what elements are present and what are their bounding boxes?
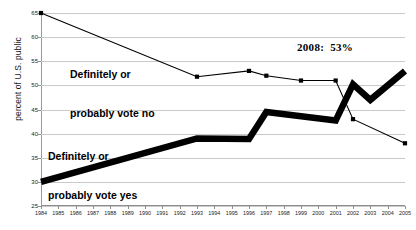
y-axis-tick-label: 40 bbox=[31, 131, 38, 137]
x-axis-tick-mark bbox=[162, 206, 163, 209]
vote-no-label-line2: probably vote no bbox=[70, 107, 155, 120]
x-axis-tick-label: 2003 bbox=[364, 210, 376, 216]
data-point-marker bbox=[195, 75, 199, 79]
data-point-marker bbox=[351, 117, 355, 121]
x-axis-tick-mark bbox=[197, 206, 198, 209]
x-axis-tick-mark bbox=[405, 206, 406, 209]
data-point-marker bbox=[247, 69, 251, 73]
x-axis-tick-label: 1992 bbox=[174, 210, 186, 216]
data-point-marker bbox=[39, 11, 43, 15]
y-axis-tick-label: 35 bbox=[31, 155, 38, 161]
vote-no-label-line1: Definitely or bbox=[70, 68, 155, 81]
y-axis-tick-label: 50 bbox=[31, 82, 38, 88]
x-axis-tick-mark bbox=[336, 206, 337, 209]
x-axis-tick-label: 2000 bbox=[312, 210, 324, 216]
x-axis-tick-mark bbox=[388, 206, 389, 209]
y-axis-tick-label: 65 bbox=[31, 10, 38, 16]
data-point-marker bbox=[264, 74, 268, 78]
x-axis-tick-mark bbox=[214, 206, 215, 209]
vote-yes-label-line2: probably vote yes bbox=[48, 189, 137, 202]
chart-container: percent of U.S. public 25303540455055606… bbox=[0, 0, 416, 230]
y-axis-tick-label: 25 bbox=[31, 203, 38, 209]
x-axis-tick-label: 2001 bbox=[330, 210, 342, 216]
x-axis-tick-mark bbox=[266, 206, 267, 209]
x-axis-tick-label: 1996 bbox=[243, 210, 255, 216]
vote-yes-label: Definitely or probably vote yes bbox=[48, 124, 137, 228]
data-point-marker bbox=[299, 78, 303, 82]
x-axis-tick-label: 2002 bbox=[347, 210, 359, 216]
x-axis-tick-label: 1995 bbox=[226, 210, 238, 216]
x-axis-tick-mark bbox=[180, 206, 181, 209]
x-axis-tick-mark bbox=[41, 206, 42, 209]
x-axis-tick-label: 1984 bbox=[35, 210, 47, 216]
y-axis-tick-label: 45 bbox=[31, 107, 38, 113]
x-axis-tick-label: 1994 bbox=[208, 210, 220, 216]
x-axis-tick-label: 2005 bbox=[399, 210, 411, 216]
data-point-marker bbox=[403, 141, 407, 145]
y-axis-title: percent of U.S. public bbox=[13, 9, 23, 149]
x-axis-tick-mark bbox=[370, 206, 371, 209]
x-axis-tick-label: 1991 bbox=[156, 210, 168, 216]
x-axis-tick-label: 1993 bbox=[191, 210, 203, 216]
x-axis-tick-mark bbox=[232, 206, 233, 209]
vote-yes-label-line1: Definitely or bbox=[48, 150, 137, 163]
x-axis-tick-mark bbox=[249, 206, 250, 209]
data-point-marker bbox=[334, 78, 338, 82]
y-axis-tick-label: 60 bbox=[31, 34, 38, 40]
x-axis-tick-label: 1999 bbox=[295, 210, 307, 216]
x-axis-tick-label: 2004 bbox=[382, 210, 394, 216]
x-axis-tick-mark bbox=[301, 206, 302, 209]
x-axis-tick-mark bbox=[318, 206, 319, 209]
x-axis-tick-mark bbox=[145, 206, 146, 209]
x-axis-tick-mark bbox=[353, 206, 354, 209]
x-axis-tick-label: 1997 bbox=[260, 210, 272, 216]
projection-2008-label: 2008: 53% bbox=[297, 41, 353, 53]
x-axis-tick-mark bbox=[284, 206, 285, 209]
x-axis-tick-label: 1990 bbox=[139, 210, 151, 216]
y-axis-tick-label: 55 bbox=[31, 58, 38, 64]
x-axis-tick-label: 1998 bbox=[278, 210, 290, 216]
y-axis-tick-label: 30 bbox=[31, 179, 38, 185]
